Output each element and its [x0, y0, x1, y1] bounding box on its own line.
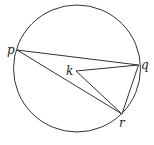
segment-qr — [122, 65, 139, 114]
circle-geometry-diagram: p q r k — [0, 0, 154, 145]
segment-kr — [76, 71, 122, 114]
label-p: p — [7, 43, 15, 57]
label-q: q — [141, 58, 149, 72]
segment-kq — [76, 65, 139, 71]
segments — [17, 50, 139, 114]
segment-pq — [17, 50, 139, 65]
label-r: r — [119, 116, 126, 130]
segment-pr — [17, 50, 122, 114]
label-k: k — [66, 64, 73, 78]
